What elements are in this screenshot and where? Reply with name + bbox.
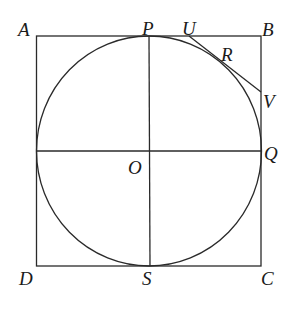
label-r: R [220,44,233,65]
label-u: U [182,18,197,39]
label-a: A [16,19,30,40]
label-c: C [261,268,274,289]
label-b: B [262,19,274,40]
geometry-diagram: A P U B R V O Q D S C [0,0,292,314]
label-p: P [141,18,154,39]
label-s: S [142,268,152,289]
label-v: V [263,91,277,112]
label-q: Q [264,143,278,164]
label-o: O [128,157,142,178]
label-d: D [18,268,33,289]
